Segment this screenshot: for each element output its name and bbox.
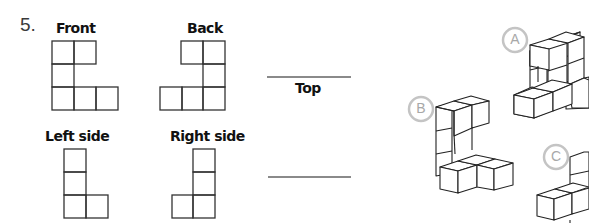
right-side-view-grid — [172, 149, 215, 218]
option-c-letter: C — [548, 148, 564, 164]
option-b-figure[interactable] — [436, 96, 513, 193]
front-view-grid — [52, 41, 118, 110]
option-a-letter: A — [507, 31, 523, 47]
left-side-view-grid — [64, 149, 108, 218]
option-b-letter: B — [413, 100, 429, 116]
back-view-grid — [160, 41, 225, 110]
figure-canvas — [0, 0, 589, 223]
